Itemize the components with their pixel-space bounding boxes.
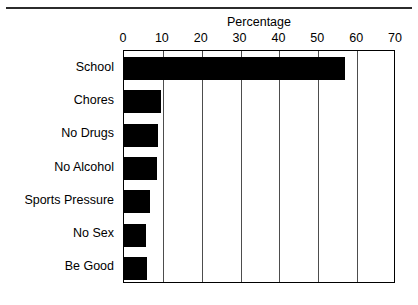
bar [124,224,146,247]
bar [124,157,157,180]
category-label: Be Good [65,259,114,274]
category-axis-labels: SchoolChoresNo DrugsNo AlcoholSports Pre… [0,50,118,283]
bar [124,90,161,113]
chart-figure: Percentage 010203040506070 SchoolChoresN… [0,0,418,305]
category-label: School [76,60,114,75]
x-tick-label: 10 [155,31,169,46]
x-tick-label: 40 [271,31,285,46]
bar [124,190,150,213]
bar [124,257,147,280]
bar-series [124,51,394,282]
bar [124,124,158,147]
category-label: No Alcohol [54,160,114,175]
category-label: Chores [74,93,114,108]
top-divider-rule [6,7,412,9]
x-tick-label: 70 [388,31,402,46]
chart-title: Percentage [123,15,395,29]
plot-area [123,50,395,283]
x-tick-label: 20 [194,31,208,46]
category-label: No Drugs [61,126,114,141]
x-axis-tick-labels: 010203040506070 [0,31,418,47]
bar [124,57,345,80]
category-label: Sports Pressure [24,193,114,208]
x-tick-label: 60 [349,31,363,46]
x-tick-label: 0 [120,31,127,46]
x-tick-label: 50 [310,31,324,46]
category-label: No Sex [73,226,114,241]
x-tick-label: 30 [233,31,247,46]
